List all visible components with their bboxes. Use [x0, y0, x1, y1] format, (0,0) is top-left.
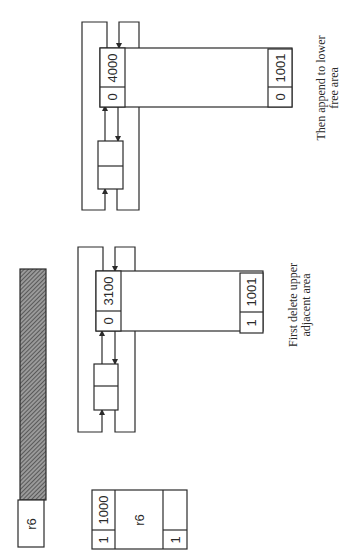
block-r6-body-label: r6: [132, 514, 147, 526]
block-r6-header-size: 1000: [96, 496, 111, 525]
step2-list-node: [98, 141, 123, 189]
step2-footer-flag: 0: [273, 93, 288, 100]
step2-footer-size: 1001: [273, 54, 288, 83]
free-block-bar: r6: [18, 269, 46, 547]
step2-caption-line1: Then append to lower: [314, 36, 328, 141]
step1-footer-size: 1001: [244, 278, 259, 307]
step1-caption-line2: adjacent area: [299, 273, 313, 337]
block-r6-footer-flag: 1: [168, 536, 183, 543]
free-block-label: r6: [24, 518, 39, 530]
step1-list-node: [94, 364, 118, 410]
step2-header-size: 4000: [105, 54, 120, 83]
step2-diagram: 4000 0 1001 0 Then append to lower free …: [82, 22, 341, 210]
step2-caption-line2: free area: [327, 67, 341, 109]
step1-header-size: 3100: [101, 277, 116, 306]
hatched-free-area: [20, 269, 46, 500]
block-r6-header-flag: 1: [96, 536, 111, 543]
memory-allocation-diagram: r6 1000 1 r6 1 3100 0 1001 1: [0, 0, 358, 559]
step2-block-body: [100, 48, 292, 107]
step1-diagram: 3100 0 1001 1 First delete upper adjacen…: [78, 247, 313, 432]
block-r6: 1000 1 r6 1: [92, 490, 187, 549]
step2-header-flag: 0: [105, 93, 120, 100]
step1-caption-line1: First delete upper: [286, 263, 300, 347]
step1-footer-flag: 1: [244, 319, 259, 326]
step1-header-flag: 0: [101, 317, 116, 324]
